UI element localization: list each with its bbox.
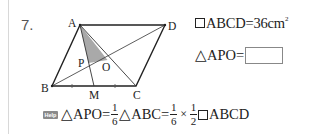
help-badge: Help: [43, 111, 58, 119]
label-o: O: [102, 61, 110, 73]
label-m: M: [89, 89, 99, 101]
fraction-one-sixth: 16: [111, 102, 118, 127]
answer-box[interactable]: [245, 47, 283, 64]
help-formula: △APO= 16 △ABC= 16 × 12 ABCD: [61, 102, 249, 127]
parallelogram-icon: [198, 110, 208, 120]
given-area: ABCD=36cm2: [195, 15, 288, 32]
parallelogram-icon: [195, 18, 205, 28]
label-a: A: [68, 17, 77, 29]
fraction-one-sixth: 16: [170, 102, 177, 127]
fraction-one-half: 12: [190, 102, 197, 127]
label-b: B: [41, 82, 49, 94]
label-p: P: [78, 57, 84, 69]
label-c: C: [133, 89, 141, 101]
label-d: D: [168, 20, 176, 32]
triangle-icon: △: [195, 47, 207, 64]
question-line: △APO=: [195, 47, 283, 64]
